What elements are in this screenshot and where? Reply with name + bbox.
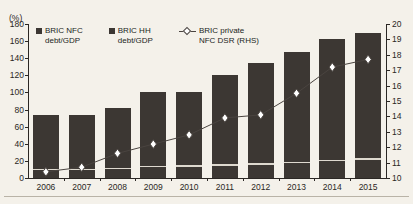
right-tick-mark bbox=[387, 70, 390, 71]
x-tick-mark bbox=[207, 178, 208, 181]
x-tick-mark bbox=[279, 178, 280, 181]
right-tick-mark bbox=[387, 132, 390, 133]
right-tick-label: 11 bbox=[392, 159, 401, 168]
right-tick-label: 13 bbox=[392, 128, 401, 137]
right-tick-label: 17 bbox=[392, 66, 401, 75]
x-tick-label: 2010 bbox=[169, 182, 209, 192]
left-tick-label: 80 bbox=[4, 106, 24, 115]
right-tick-label: 19 bbox=[392, 35, 401, 44]
bar-stack bbox=[140, 92, 166, 178]
legend-item-label: BRIC NFC debt/GDP bbox=[45, 26, 83, 46]
left-tick-label: 100 bbox=[4, 88, 24, 97]
right-tick-mark bbox=[387, 178, 390, 179]
x-tick-mark bbox=[314, 178, 315, 181]
bar-segment-divider bbox=[319, 160, 345, 161]
right-tick-mark bbox=[387, 101, 390, 102]
x-tick-mark bbox=[135, 178, 136, 181]
bar-segment-divider bbox=[33, 169, 59, 170]
legend-square-icon bbox=[36, 28, 42, 34]
right-tick-label: 18 bbox=[392, 51, 401, 60]
x-tick-mark bbox=[64, 178, 65, 181]
x-tick-label: 2009 bbox=[133, 182, 173, 192]
left-tick-label: 40 bbox=[4, 140, 24, 149]
left-tick-label: 140 bbox=[4, 54, 24, 63]
left-tick-label: 60 bbox=[4, 123, 24, 132]
x-tick-mark bbox=[171, 178, 172, 181]
left-tick-label: 120 bbox=[4, 71, 24, 80]
bar-segment-divider bbox=[284, 162, 310, 163]
left-tick-mark bbox=[25, 75, 28, 76]
bar-segment-divider bbox=[69, 169, 95, 170]
chart-legend: BRIC NFC debt/GDPBRIC HH debt/GDPBRIC pr… bbox=[36, 26, 259, 46]
bar-segment-divider bbox=[355, 158, 381, 159]
right-tick-label: 15 bbox=[392, 97, 401, 106]
right-tick-label: 12 bbox=[392, 143, 401, 152]
bar-stack bbox=[248, 63, 274, 178]
x-tick-label: 2011 bbox=[205, 182, 245, 192]
left-tick-mark bbox=[25, 161, 28, 162]
left-tick-label: 20 bbox=[4, 157, 24, 166]
right-tick-label: 14 bbox=[392, 112, 401, 121]
x-tick-label: 2012 bbox=[241, 182, 281, 192]
right-tick-mark bbox=[387, 86, 390, 87]
x-tick-mark bbox=[350, 178, 351, 181]
right-tick-mark bbox=[387, 147, 390, 148]
right-tick-mark bbox=[387, 163, 390, 164]
x-tick-label: 2008 bbox=[98, 182, 138, 192]
legend-item-label: BRIC private NFC DSR (RHS) bbox=[199, 26, 259, 46]
legend-item[interactable]: BRIC HH debt/GDP bbox=[109, 26, 153, 46]
right-tick-label: 20 bbox=[392, 20, 401, 29]
left-tick-mark bbox=[25, 110, 28, 111]
bar-segment-divider bbox=[248, 163, 274, 164]
bar-stack bbox=[319, 39, 345, 178]
right-tick-mark bbox=[387, 116, 390, 117]
bar-stack bbox=[355, 33, 381, 178]
bar-stack bbox=[212, 75, 238, 178]
left-tick-mark bbox=[25, 144, 28, 145]
left-tick-mark bbox=[25, 24, 28, 25]
x-tick-label: 2013 bbox=[277, 182, 317, 192]
x-tick-label: 2015 bbox=[348, 182, 388, 192]
x-tick-label: 2007 bbox=[62, 182, 102, 192]
chart-container: (%) 020406080100120140160180 10111213141… bbox=[0, 0, 413, 204]
left-tick-mark bbox=[25, 178, 28, 179]
legend-item[interactable]: BRIC NFC debt/GDP bbox=[36, 26, 83, 46]
right-tick-mark bbox=[387, 24, 390, 25]
legend-square-icon bbox=[109, 28, 115, 34]
bar-segment-divider bbox=[212, 164, 238, 165]
left-tick-mark bbox=[25, 58, 28, 59]
legend-item[interactable]: BRIC private NFC DSR (RHS) bbox=[179, 26, 259, 46]
bar-segment-divider bbox=[105, 168, 131, 169]
legend-line-diamond-icon bbox=[179, 27, 196, 36]
footer-rule bbox=[4, 196, 409, 197]
right-tick-label: 16 bbox=[392, 82, 401, 91]
x-tick-label: 2014 bbox=[312, 182, 352, 192]
bar-stack bbox=[284, 52, 310, 178]
right-tick-mark bbox=[387, 55, 390, 56]
left-tick-label: 180 bbox=[4, 20, 24, 29]
left-tick-mark bbox=[25, 41, 28, 42]
left-tick-label: 160 bbox=[4, 37, 24, 46]
left-tick-label: 0 bbox=[4, 174, 24, 183]
x-tick-mark bbox=[100, 178, 101, 181]
right-tick-mark bbox=[387, 39, 390, 40]
legend-item-label: BRIC HH debt/GDP bbox=[118, 26, 153, 46]
bar-segment-divider bbox=[140, 166, 166, 167]
left-axis-line bbox=[28, 24, 29, 179]
bar-segment-divider bbox=[176, 165, 202, 166]
left-tick-mark bbox=[25, 92, 28, 93]
x-tick-label: 2006 bbox=[26, 182, 66, 192]
right-tick-label: 10 bbox=[392, 174, 401, 183]
left-tick-mark bbox=[25, 127, 28, 128]
x-tick-mark bbox=[243, 178, 244, 181]
